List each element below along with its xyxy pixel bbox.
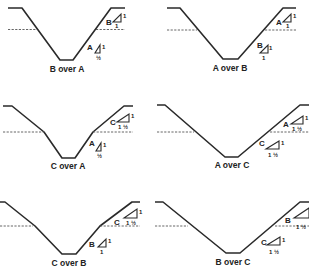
slope-run: ½ — [97, 153, 102, 159]
panel-a-over-c: A 1 1 ½ C 1 1 ½ A over C — [157, 105, 309, 170]
channel-profile — [155, 202, 309, 253]
slope-run: 1 ½ — [126, 220, 136, 226]
slope-triangle-lower — [98, 239, 106, 247]
slope-triangle-upper — [294, 208, 309, 218]
slope-triangle-upper — [291, 116, 303, 124]
slope-triangle-lower — [96, 143, 101, 151]
upper-layer-label: A — [276, 18, 282, 27]
channel-profile — [157, 105, 309, 157]
slope-run: 1 — [262, 55, 266, 61]
slope-triangle-lower — [266, 141, 279, 149]
slope-rise: 1 — [102, 44, 106, 50]
slope-run: 1 — [115, 23, 119, 29]
panel-b-over-c: B 1 ½ C 1 1 ½ B over C — [155, 202, 309, 267]
soil-layer-diagram: B 1 1 A 1 ½ B over A A 1 1 B 1 1 A over … — [0, 0, 309, 276]
upper-layer-label: C — [110, 118, 116, 127]
slope-run: 1 ½ — [269, 249, 279, 255]
slope-rise: 1 — [282, 237, 286, 243]
slope-run: 1 ½ — [296, 224, 306, 230]
lower-layer-label: C — [261, 238, 267, 247]
panel-caption: C over A — [51, 161, 86, 171]
lower-layer-label: A — [89, 139, 95, 148]
slope-rise: 1 — [281, 140, 285, 146]
slope-rise: 1 — [103, 142, 107, 148]
slope-triangle-upper — [283, 14, 291, 22]
slope-run: 1 — [100, 249, 104, 255]
slope-triangle-lower — [267, 237, 280, 245]
slope-rise: 1 — [131, 113, 135, 119]
slope-triangle-upper — [124, 209, 137, 218]
slope-rise: 1 — [305, 115, 309, 121]
upper-layer-label: B — [285, 216, 291, 225]
slope-triangle-lower — [95, 45, 100, 53]
panel-caption: C over B — [52, 258, 87, 268]
panel-caption: A over C — [215, 160, 250, 170]
slope-triangle-upper — [117, 114, 129, 122]
slope-run: 1 ½ — [268, 152, 278, 158]
upper-layer-label: B — [106, 18, 112, 27]
slope-rise: 1 — [139, 209, 143, 215]
slope-rise: 1 — [108, 238, 112, 244]
channel-profile — [0, 202, 140, 254]
panel-c-over-a: C 1 1 ½ A 1 ½ C over A — [3, 106, 135, 171]
panel-b-over-a: B 1 1 A 1 ½ B over A — [8, 8, 127, 74]
panel-caption: B over C — [216, 257, 251, 267]
slope-run: ½ — [96, 55, 101, 61]
lower-layer-label: C — [259, 139, 265, 148]
slope-run: 1 ½ — [292, 126, 302, 132]
lower-layer-label: A — [87, 43, 93, 52]
upper-layer-label: C — [114, 218, 120, 227]
lower-layer-label: B — [89, 240, 95, 249]
panel-a-over-b: A 1 1 B 1 1 A over B — [167, 8, 297, 73]
slope-run: 1 ½ — [118, 124, 128, 130]
slope-rise: 1 — [123, 13, 127, 19]
panel-c-over-b: C 1 1 ½ B 1 1 C over B — [0, 202, 143, 268]
channel-profile — [8, 8, 125, 60]
panel-caption: A over B — [213, 63, 248, 73]
slope-run: 1 — [286, 23, 290, 29]
panel-caption: B over A — [50, 64, 85, 74]
upper-layer-label: A — [283, 120, 289, 129]
lower-layer-label: B — [257, 41, 263, 50]
slope-rise: 1 — [293, 13, 297, 19]
slope-rise: 1 — [269, 45, 273, 51]
channel-profile — [167, 8, 296, 59]
slope-triangle-upper — [113, 14, 121, 22]
